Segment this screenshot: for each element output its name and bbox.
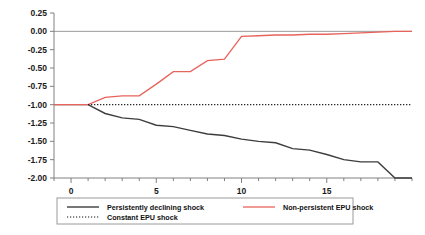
y-tick-label: -1.00	[28, 100, 48, 110]
y-tick-label: -2.00	[28, 173, 48, 183]
plot-area: 0.250.00-0.25-0.50-0.75-1.00-1.25-1.50-1…	[28, 8, 412, 196]
chart-svg: 0.250.00-0.25-0.50-0.75-1.00-1.25-1.50-1…	[0, 0, 425, 235]
y-tick-label: -1.75	[28, 155, 48, 165]
x-tick-label: 0	[69, 186, 74, 196]
impulse-response-chart: 0.250.00-0.25-0.50-0.75-1.00-1.25-1.50-1…	[0, 0, 425, 235]
x-tick-label: 10	[237, 186, 247, 196]
x-axis-tick-labels: 051015	[69, 186, 332, 196]
x-tick-label: 5	[154, 186, 159, 196]
y-tick-label: -1.25	[28, 118, 48, 128]
y-axis-tick-labels: 0.250.00-0.25-0.50-0.75-1.00-1.25-1.50-1…	[28, 8, 48, 183]
y-axis-ticks	[50, 13, 54, 178]
y-tick-label: -1.50	[28, 136, 48, 146]
y-tick-label: 0.25	[30, 8, 47, 18]
legend-label: Persistently declining shock	[107, 203, 204, 212]
x-tick-label: 15	[322, 186, 332, 196]
legend-label: Constant EPU shock	[107, 213, 178, 222]
y-tick-label: -0.75	[28, 81, 48, 91]
legend-label: Non-persistent EPU shock	[283, 203, 373, 212]
y-tick-label: 0.00	[30, 26, 47, 36]
chart-legend: Persistently declining shockNon-persiste…	[57, 198, 373, 224]
y-tick-label: -0.25	[28, 45, 48, 55]
data-series-layer	[54, 31, 412, 178]
series-line	[54, 105, 412, 178]
y-tick-label: -0.50	[28, 63, 48, 73]
series-line	[54, 31, 412, 104]
x-axis-ticks	[54, 178, 412, 183]
